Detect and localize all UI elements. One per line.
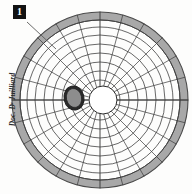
figure-credit-caption: Doc. Dʳ Juilliard: [8, 65, 17, 135]
central-blind-spot: [89, 86, 117, 114]
visual-field-chart: [0, 0, 192, 194]
figure-number-badge: 1: [13, 5, 26, 19]
figure-panel: 1 Doc. Dʳ Juilliard: [0, 0, 192, 194]
